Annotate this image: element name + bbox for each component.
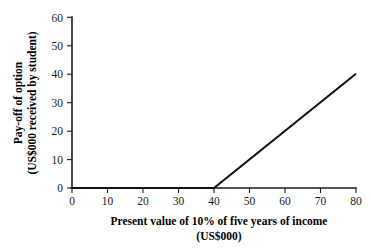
y-axis-tick-labels: 60 50 40 30 20 10 0: [52, 12, 64, 195]
y-tick-label-0: 0: [57, 182, 63, 194]
x-tick-label-50: 50: [244, 195, 256, 207]
x-tick-label-80: 80: [350, 195, 362, 207]
x-tick-label-10: 10: [102, 195, 114, 207]
y-tick-label-50: 50: [52, 40, 64, 52]
y-tick-label-20: 20: [52, 125, 64, 137]
x-tick-label-60: 60: [279, 195, 291, 207]
y-axis-title-line2: (US$000 received by student): [26, 31, 39, 174]
x-axis-tick-labels: 0 10 20 30 40 50 60 70 80: [69, 195, 362, 207]
y-tick-label-40: 40: [52, 68, 64, 80]
y-tick-label-10: 10: [52, 154, 64, 166]
x-axis-title-line2: (US$000): [196, 230, 242, 243]
y-axis-title-line1: Pay-off of option: [12, 61, 25, 144]
x-tick-label-70: 70: [315, 195, 327, 207]
y-tick-label-30: 30: [52, 97, 64, 109]
x-tick-label-0: 0: [69, 195, 75, 207]
chart-figure: 60 50 40 30 20 10 0 0 10 20 30 40 50 60 …: [0, 0, 370, 252]
x-tick-label-30: 30: [173, 195, 185, 207]
y-tick-label-60: 60: [52, 12, 64, 24]
chart-plot-svg: 60 50 40 30 20 10 0 0 10 20 30 40 50 60 …: [0, 0, 370, 252]
payoff-line-series: [72, 74, 356, 188]
x-tick-label-20: 20: [137, 195, 149, 207]
x-tick-label-40: 40: [208, 195, 220, 207]
x-axis-title-line1: Present value of 10% of five years of in…: [111, 215, 328, 228]
